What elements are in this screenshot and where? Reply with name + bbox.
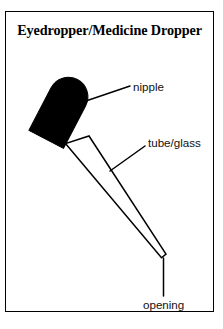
eyedropper-illustration: [0, 0, 223, 329]
tube-glass-shape: [66, 136, 167, 258]
tube-glass-body: [66, 136, 167, 258]
label-opening: opening: [143, 299, 184, 311]
leader-line-tube-glass: [110, 146, 145, 171]
figure-plate: Eyedropper/Medicine Dropper nipple tube/…: [0, 0, 223, 329]
label-nipple: nipple: [133, 81, 164, 93]
label-tube-glass: tube/glass: [148, 137, 201, 149]
